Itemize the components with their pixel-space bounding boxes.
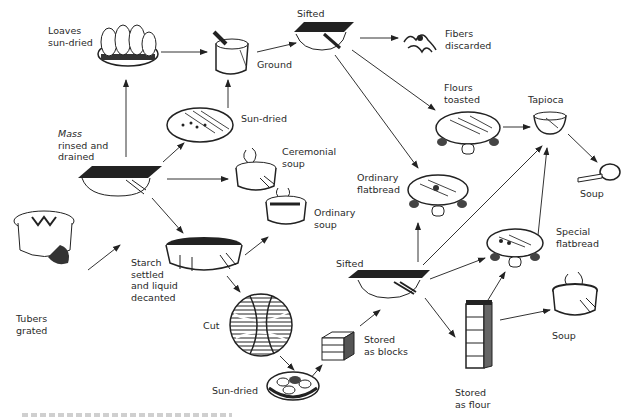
label-loaves: Loaves sun-dried	[48, 25, 93, 48]
label-line: Stored	[455, 387, 491, 399]
bowl-icon	[532, 110, 568, 136]
label-line: Flours	[444, 82, 480, 94]
truncated-caption	[22, 413, 232, 417]
loaves-basket-icon	[95, 22, 161, 70]
label-line: soup	[282, 158, 336, 170]
process-diagram: Tubers grated Mass rinsed and drained Lo…	[0, 0, 632, 420]
label-line: as flour	[455, 399, 491, 411]
label-soup-1: Soup	[580, 188, 604, 200]
label-sifted-1: Sifted	[297, 8, 324, 20]
griddle-icon	[434, 108, 502, 158]
sieve-icon	[294, 20, 360, 52]
grated-tubers-icon	[10, 205, 78, 270]
label-line: drained	[58, 151, 108, 163]
label-line: decanted	[131, 292, 178, 304]
pot-icon	[262, 188, 310, 228]
sieve-icon	[348, 268, 434, 302]
pot-icon	[550, 272, 600, 320]
label-line: rinsed and	[58, 140, 108, 152]
label-line: flatbread	[357, 184, 400, 196]
label-sifted-2: Sifted	[336, 258, 363, 270]
cut-starch-icon	[228, 292, 294, 358]
label-tubers-grated: Tubers grated	[16, 313, 47, 336]
label-line: Ordinary	[314, 207, 355, 219]
label-line: Stored	[364, 334, 408, 346]
label-line: settled	[131, 269, 178, 281]
label-stored-blocks: Stored as blocks	[364, 334, 408, 357]
label-line: as blocks	[364, 346, 408, 358]
label-line: Ceremonial	[282, 146, 336, 158]
label-tapioca: Tapioca	[528, 94, 564, 106]
label-line: Starch	[131, 257, 178, 269]
mortar-pestle-icon	[206, 28, 256, 78]
label-special-flatbread: Special flatbread	[556, 226, 599, 249]
label-line: flatbread	[556, 238, 599, 250]
label-stored-flour: Stored as flour	[455, 387, 491, 410]
blocks-icon	[318, 330, 358, 364]
label-flours-toasted: Flours toasted	[444, 82, 480, 105]
sieve-icon	[78, 162, 168, 200]
label-line: Loaves	[48, 25, 93, 37]
label-sun-dried-1: Sun-dried	[241, 113, 287, 125]
label-line: and liquid	[131, 280, 178, 292]
label-line: Tubers	[16, 313, 47, 325]
drying-tray-icon	[165, 105, 235, 145]
griddle-icon	[406, 172, 470, 222]
label-line: soup	[314, 219, 355, 231]
label-ordinary-flatbread: Ordinary flatbread	[357, 172, 400, 195]
label-ordinary-soup: Ordinary soup	[314, 207, 355, 230]
label-fibers: Fibers discarded	[445, 28, 491, 51]
label-line: Fibers	[445, 28, 491, 40]
flour-column-icon	[462, 300, 496, 370]
label-line: Ordinary	[357, 172, 400, 184]
label-line: grated	[16, 325, 47, 337]
label-mass-rinsed: Mass rinsed and drained	[58, 128, 108, 163]
label-soup-2: Soup	[552, 330, 576, 342]
label-line: toasted	[444, 94, 480, 106]
label-ceremonial-soup: Ceremonial soup	[282, 146, 336, 169]
label-sun-dried-2: Sun-dried	[212, 385, 258, 397]
label-ground: Ground	[257, 59, 292, 71]
griddle-icon	[485, 225, 545, 275]
dried-pieces-icon	[265, 362, 321, 402]
fibers-icon	[400, 28, 440, 56]
label-italic: Mass	[58, 128, 82, 139]
label-line: Special	[556, 226, 599, 238]
label-line: sun-dried	[48, 37, 93, 49]
ladle-icon	[576, 162, 622, 184]
label-cut: Cut	[203, 320, 219, 332]
label-starch-settled: Starch settled and liquid decanted	[131, 257, 178, 303]
label-line: discarded	[445, 40, 491, 52]
